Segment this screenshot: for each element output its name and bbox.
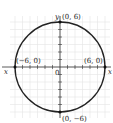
label-top: (0, 6) xyxy=(62,13,81,21)
label-right: (6, 0) xyxy=(84,57,103,65)
x-axis-label-right: x xyxy=(108,68,112,76)
point-left xyxy=(14,66,17,69)
y-axis-label: y xyxy=(54,13,60,21)
label-left: (−6, 0) xyxy=(16,57,41,65)
origin-label: 0 xyxy=(55,69,59,77)
x-axis-label-left: x xyxy=(4,68,8,76)
circle-graph: y (0, 6) (−6, 0) (6, 0) (0, −6) 0 x x xyxy=(0,0,113,123)
point-right xyxy=(104,66,107,69)
point-bottom xyxy=(59,111,62,114)
label-bottom: (0, −6) xyxy=(62,115,87,123)
